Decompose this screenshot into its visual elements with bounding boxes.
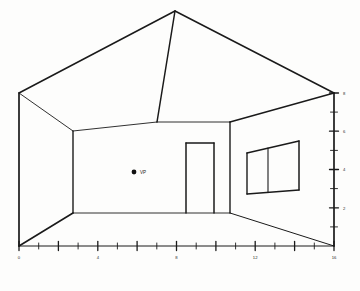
x-axis-tick-label: 0 (18, 255, 21, 260)
door-group (186, 143, 214, 213)
vanishing-point-label: VP (140, 170, 146, 175)
x-axis-tick-label: 12 (253, 255, 258, 260)
x-axis-tick-label: 16 (332, 255, 337, 260)
x-axis-tick-label: 4 (97, 255, 100, 260)
perspective-room-figure: VP 0 4 8 12 (0, 0, 360, 291)
window-group (247, 141, 299, 194)
window-top-edge (247, 141, 299, 153)
ceiling-edge-left-front-to-back (19, 93, 73, 131)
drawing-canvas: VP 0 4 8 12 (0, 0, 360, 291)
y-axis-tick-label: 6 (343, 129, 346, 134)
walls-group (19, 93, 334, 246)
ceiling-ridge-apex-to-back (157, 11, 175, 122)
ceiling-edge-apex-to-right-front (175, 11, 334, 93)
floor-edge-left-receding (19, 213, 73, 246)
x-axis-tick-label: 8 (175, 255, 178, 260)
vanishing-point-group: VP (132, 170, 147, 175)
ceiling-back-left-slope (73, 122, 157, 131)
y-axis-tick-label: 4 (343, 167, 346, 172)
ceiling-edge-apex-to-left-front (19, 11, 175, 93)
floor-edge-right-receding (230, 213, 334, 246)
x-axis-labels: 0 4 8 12 16 (18, 255, 337, 260)
y-axis-tick-label: 8 (343, 91, 346, 96)
vanishing-point-dot (132, 170, 137, 175)
ceiling-edge-right-back-to-front (230, 93, 334, 122)
y-axis-labels: 2 4 6 8 (343, 91, 346, 211)
ceiling-group (19, 11, 334, 131)
x-axis-group (19, 242, 334, 251)
window-bottom-edge (247, 190, 299, 194)
y-axis-tick-label: 2 (343, 206, 346, 211)
